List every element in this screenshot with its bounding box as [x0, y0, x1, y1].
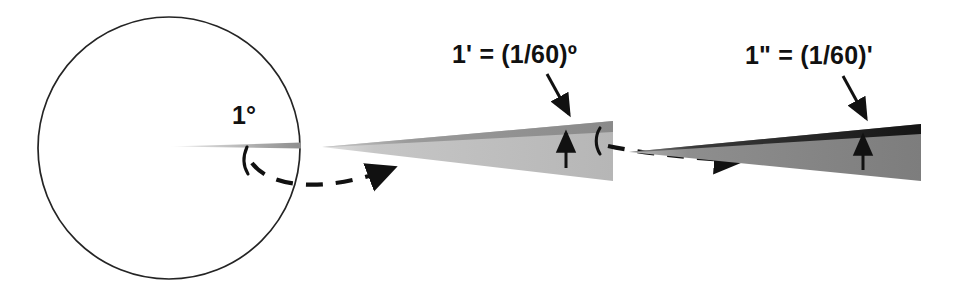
- one-degree-ray: [168, 143, 301, 149]
- label-pointer-minute: [547, 74, 569, 114]
- angle-units-diagram: 1° 1' = (1/60)º 1" = (1/60)': [0, 0, 954, 293]
- magnify-link-circle-to-minute: [252, 163, 393, 185]
- angle-arc-degree: [244, 147, 248, 174]
- label-pointer-second: [843, 76, 866, 118]
- second-label: 1" = (1/60)': [745, 41, 873, 70]
- minute-label: 1' = (1/60)º: [452, 40, 577, 69]
- full-circle: [38, 17, 300, 279]
- degree-label: 1°: [232, 101, 256, 130]
